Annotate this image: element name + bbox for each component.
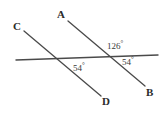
angle-label-54-left: 54°	[73, 62, 85, 73]
angle-value-54-left: 54	[73, 63, 82, 73]
degree-symbol-icon: °	[131, 55, 134, 63]
point-label-b: B	[146, 87, 153, 98]
angle-value-126: 126	[107, 41, 121, 51]
geometry-canvas	[0, 0, 163, 117]
angle-value-54-right: 54	[122, 57, 131, 67]
line-a-b	[68, 21, 145, 86]
point-label-c: C	[13, 21, 21, 32]
angle-label-126: 126°	[107, 40, 123, 51]
degree-symbol-icon: °	[82, 61, 85, 69]
angle-label-54-right: 54°	[122, 56, 134, 67]
point-label-d: D	[102, 96, 110, 107]
geometry-figure: A C B D 126° 54° 54°	[0, 0, 163, 117]
line-c-d	[24, 31, 101, 96]
point-label-a: A	[57, 9, 65, 20]
horizontal-transversal-line	[16, 55, 158, 60]
degree-symbol-icon: °	[121, 39, 124, 47]
